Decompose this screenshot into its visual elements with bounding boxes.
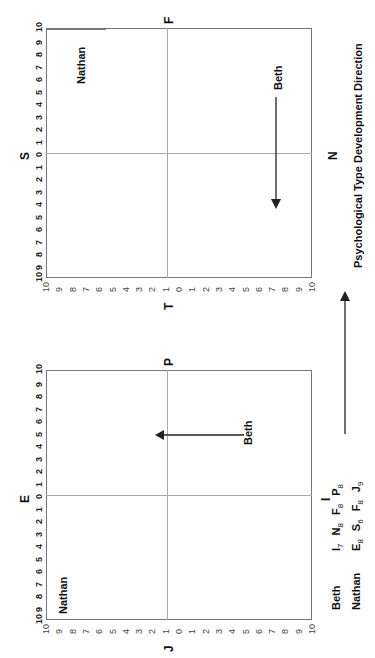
axis-label-p: P (162, 358, 176, 366)
lower-beth-arrow-icon (154, 428, 246, 442)
tick-label: 9 (54, 287, 64, 292)
legend-scores-nathan: E8S6F8J9 (350, 474, 362, 551)
tick-label: 6 (254, 629, 264, 634)
legend-row-beth: Beth I7N8F8P8 (330, 476, 345, 610)
axis-label-t: T (162, 303, 176, 310)
tick-label: 3 (134, 629, 144, 634)
tick-label: 6 (94, 287, 104, 292)
tick-label: 1 (34, 139, 44, 144)
tick-label: 6 (34, 77, 44, 82)
tick-label: 6 (94, 629, 104, 634)
tick-label: 2 (34, 177, 44, 182)
tick-label: 9 (34, 606, 44, 611)
tick-label: 2 (147, 287, 157, 292)
tick-label: 0 (34, 152, 44, 157)
upper-beth-arrow-icon (268, 95, 284, 211)
tick-label: 5 (34, 214, 44, 219)
axis-label-j: J (162, 645, 176, 652)
tick-label: 0 (34, 494, 44, 499)
legend-score: F8 (330, 504, 342, 515)
tick-label: 3 (214, 629, 224, 634)
tick-label: 8 (68, 629, 78, 634)
tick-label: 1 (34, 506, 44, 511)
tick-label: 5 (241, 629, 251, 634)
tick-label: 5 (34, 431, 44, 436)
legend-scores-beth: I7N8F8P8 (330, 476, 342, 551)
tick-label: 3 (34, 114, 44, 119)
tick-label: 9 (34, 381, 44, 386)
tick-label: 1 (34, 481, 44, 486)
legend-score: J9 (350, 482, 362, 493)
tick-label: 2 (34, 127, 44, 132)
tick-label: 6 (34, 227, 44, 232)
tick-label: 1 (187, 287, 197, 292)
axis-label-f: F (162, 17, 176, 24)
tick-label: 7 (34, 239, 44, 244)
tick-label: 2 (34, 469, 44, 474)
tick-label: 0 (174, 629, 184, 634)
tick-label: 9 (294, 287, 304, 292)
tick-label: 7 (267, 287, 277, 292)
tick-label: 10 (34, 22, 44, 32)
figure-title: Psychological Type Development Direction (352, 43, 364, 268)
axis-label-s: S (18, 152, 32, 160)
legend-score: N8 (330, 523, 342, 535)
lower-horizontal-axis-line (46, 495, 312, 496)
tick-label: 4 (34, 202, 44, 207)
tick-label: 10 (41, 282, 51, 292)
tick-label: 9 (54, 629, 64, 634)
tick-label: 6 (254, 287, 264, 292)
tick-label: 8 (280, 629, 290, 634)
legend-score: S6 (350, 519, 362, 531)
tick-label: 5 (108, 629, 118, 634)
tick-label: 3 (214, 287, 224, 292)
tick-label: 3 (134, 287, 144, 292)
tick-label: 6 (34, 569, 44, 574)
tick-label: 4 (34, 102, 44, 107)
tick-label: 8 (34, 594, 44, 599)
tick-label: 7 (34, 64, 44, 69)
tick-label: 7 (34, 406, 44, 411)
tick-label: 5 (34, 556, 44, 561)
tick-label: 1 (161, 287, 171, 292)
development-direction-arrow-icon (338, 290, 352, 436)
tick-label: 10 (34, 272, 44, 282)
tick-label: 9 (294, 629, 304, 634)
tick-label: 5 (34, 89, 44, 94)
lower-nathan-label: Nathan (57, 577, 69, 614)
legend-row-nathan: Nathan E8S6F8J9 (350, 474, 365, 610)
upper-nathan-label: Nathan (75, 47, 87, 84)
tick-label: 2 (34, 519, 44, 524)
tick-label: 5 (241, 287, 251, 292)
tick-label: 1 (187, 629, 197, 634)
legend-score: F8 (350, 500, 362, 511)
tick-label: 7 (81, 287, 91, 292)
legend-name-nathan: Nathan (350, 554, 362, 610)
tick-label: 4 (34, 544, 44, 549)
tick-label: 8 (280, 287, 290, 292)
tick-label: 3 (34, 456, 44, 461)
legend-score: I7 (330, 543, 342, 551)
tick-label: 10 (34, 364, 44, 374)
tick-label: 1 (34, 164, 44, 169)
tick-label: 4 (34, 444, 44, 449)
tick-label: 3 (34, 189, 44, 194)
tick-label: 8 (68, 287, 78, 292)
tick-label: 10 (307, 282, 317, 292)
tick-label: 2 (201, 629, 211, 634)
axis-label-n: N (326, 151, 340, 160)
tick-label: 4 (121, 287, 131, 292)
tick-label: 10 (307, 624, 317, 634)
tick-label: 10 (34, 614, 44, 624)
tick-label: 6 (34, 419, 44, 424)
tick-label: 4 (227, 287, 237, 292)
tick-label: 9 (34, 264, 44, 269)
tick-label: 7 (34, 581, 44, 586)
tick-label: 7 (81, 629, 91, 634)
legend-name-beth: Beth (330, 554, 342, 610)
tick-label: 1 (161, 629, 171, 634)
tick-label: 8 (34, 252, 44, 257)
tick-label: 7 (267, 629, 277, 634)
tick-label: 2 (147, 629, 157, 634)
tick-label: 4 (121, 629, 131, 634)
